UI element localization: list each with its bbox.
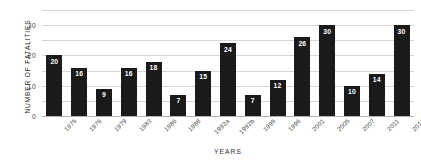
bar-value-label: 26: [294, 40, 310, 47]
bar-value-label: 30: [394, 28, 410, 35]
bar[interactable]: 16: [71, 68, 87, 116]
bar-value-label: 18: [146, 64, 162, 71]
bars-layer: 201691618715247122630101430: [42, 10, 414, 116]
plot-area: 201691618715247122630101430: [42, 10, 414, 116]
bar[interactable]: 30: [319, 25, 335, 116]
bar-value-label: 12: [270, 82, 286, 89]
bar-value-label: 20: [46, 58, 62, 65]
bar[interactable]: 24: [220, 43, 236, 116]
x-tick-label: 1992a: [213, 117, 231, 135]
bar[interactable]: 12: [270, 80, 286, 116]
x-tick-label: 1976: [88, 117, 104, 133]
bar-value-label: 10: [344, 88, 360, 95]
x-tick-label: 1983: [137, 117, 153, 133]
y-axis-tick-labels: 0102030: [0, 10, 42, 116]
bar-slot[interactable]: 26: [294, 10, 310, 116]
bar-slot[interactable]: 16: [71, 10, 87, 116]
bar[interactable]: 26: [294, 37, 310, 116]
bar[interactable]: 7: [170, 95, 186, 116]
x-tick-label: 1992b: [237, 117, 255, 135]
x-tick-label: 1986: [162, 117, 178, 133]
bar-value-label: 16: [71, 70, 87, 77]
x-tick-label: 2001: [311, 117, 327, 133]
bar-value-label: 14: [369, 76, 385, 83]
bar-value-label: 16: [121, 70, 137, 77]
bar-value-label: 7: [170, 97, 186, 104]
x-tick-label: 2007: [360, 117, 376, 133]
bar-slot[interactable]: 18: [146, 10, 162, 116]
x-tick-label: 1996: [286, 117, 302, 133]
bar-chart: NUMBER OF FATALITIES 0102030 20169161871…: [0, 0, 421, 168]
bar-slot[interactable]: 9: [96, 10, 112, 116]
bar[interactable]: 20: [46, 55, 62, 116]
bar[interactable]: 18: [146, 62, 162, 117]
bar-value-label: 7: [245, 97, 261, 104]
bar-slot[interactable]: 12: [270, 10, 286, 116]
bar-value-label: 15: [195, 73, 211, 80]
bar-slot[interactable]: 7: [245, 10, 261, 116]
bar[interactable]: 14: [369, 74, 385, 116]
x-tick-label: 1975: [63, 117, 79, 133]
x-tick-label: 1995: [261, 117, 277, 133]
y-tick-label-0: 0: [32, 113, 36, 120]
x-tick-label: 1988: [187, 117, 203, 133]
bar-slot[interactable]: 15: [195, 10, 211, 116]
bar-value-label: 9: [96, 91, 112, 98]
bar[interactable]: 15: [195, 71, 211, 116]
bar-value-label: 24: [220, 46, 236, 53]
bar-slot[interactable]: 24: [220, 10, 236, 116]
bar[interactable]: 7: [245, 95, 261, 116]
x-tick-label: 2005: [336, 117, 352, 133]
y-tick-label-10: 10: [28, 82, 36, 89]
x-tick-label: 2014: [410, 117, 421, 133]
bar-value-label: 30: [319, 28, 335, 35]
bar-slot[interactable]: 30: [394, 10, 410, 116]
x-tick-label: 1979: [112, 117, 128, 133]
bar-slot[interactable]: 7: [170, 10, 186, 116]
bar-slot[interactable]: 20: [46, 10, 62, 116]
y-tick-label-30: 30: [28, 22, 36, 29]
bar[interactable]: 16: [121, 68, 137, 116]
x-axis-title: YEARS: [42, 148, 414, 155]
x-axis-tick-labels: 1975197619791983198619881992a1992b199519…: [42, 117, 414, 145]
x-tick-label: 2011: [385, 117, 400, 132]
bar-slot[interactable]: 30: [319, 10, 335, 116]
bar-slot[interactable]: 14: [369, 10, 385, 116]
bar-slot[interactable]: 16: [121, 10, 137, 116]
bar[interactable]: 30: [394, 25, 410, 116]
bar-slot[interactable]: 10: [344, 10, 360, 116]
y-tick-label-20: 20: [28, 52, 36, 59]
bar[interactable]: 10: [344, 86, 360, 116]
bar[interactable]: 9: [96, 89, 112, 116]
